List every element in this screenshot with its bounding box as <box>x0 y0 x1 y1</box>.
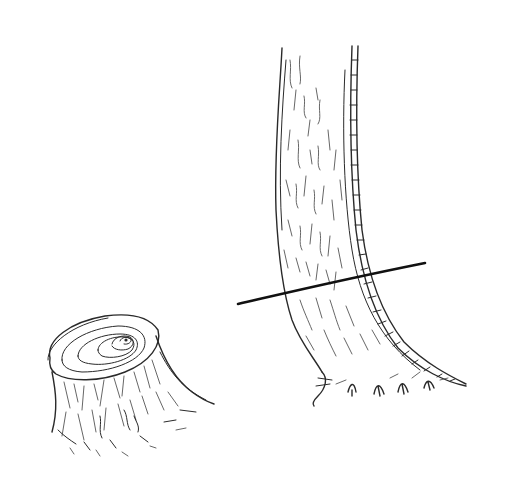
cut-line <box>238 263 425 304</box>
tree-trunk <box>276 46 466 406</box>
sketch-canvas: Pencil sketch: a cut tree stump and a st… <box>0 0 511 486</box>
tree-stump <box>48 315 214 456</box>
